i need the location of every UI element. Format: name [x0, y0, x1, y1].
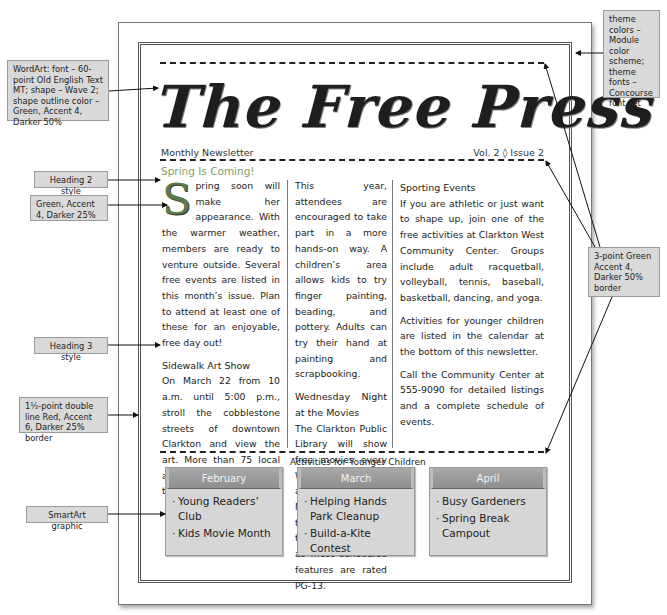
- callout-heading-2: Heading 2 style: [34, 171, 108, 188]
- list-item: Busy Gardeners: [436, 494, 542, 509]
- callout-page-border: 1½-point double line Red, Accent 6, Dark…: [19, 397, 108, 433]
- heading-3-wednesday-movies: Wednesday Night at the Movies: [295, 389, 387, 420]
- callout-dashed-border: 3-point Green Accent 4, Darker 50% borde…: [588, 247, 660, 297]
- col1-intro-paragraph: Spring soon will make her appearance. Wi…: [162, 178, 280, 351]
- smartart-caption: Activities for Younger Children: [290, 457, 426, 467]
- column-1: Spring soon will make her appearance. Wi…: [162, 178, 280, 506]
- drop-cap: S: [162, 180, 191, 218]
- callout-wordart: WordArt: font – 60-point Old English Tex…: [7, 60, 109, 121]
- column-divider: [287, 180, 288, 448]
- col2-intro-paragraph: This year, attendees are encouraged to t…: [295, 178, 387, 382]
- list-item: Spring Break Campout: [436, 511, 542, 541]
- smartart-header: April: [430, 468, 546, 489]
- list-item: Helping Hands Park Cleanup: [304, 494, 410, 524]
- column-divider: [392, 180, 393, 448]
- smartart-box-march[interactable]: March Helping Hands Park Cleanup Build-a…: [297, 467, 415, 556]
- masthead-bottom-dashed-border: [160, 159, 544, 161]
- smartart-list: Busy Gardeners Spring Break Campout: [430, 489, 546, 541]
- callout-theme: theme colors – Module color scheme; them…: [603, 10, 660, 98]
- smartart-list: Young Readers’ Club Kids Movie Month: [166, 489, 282, 541]
- smartart-list: Helping Hands Park Cleanup Build-a-Kite …: [298, 489, 414, 556]
- col3-younger-children-paragraph: Activities for younger children are list…: [400, 313, 544, 360]
- col3-sports-paragraph: If you are athletic or just want to shap…: [400, 196, 544, 306]
- col3-call-center-paragraph: Call the Community Center at 555-9090 fo…: [400, 367, 544, 430]
- heading-3-sporting-events: Sporting Events: [400, 180, 544, 196]
- callout-smartart: SmartArt graphic: [26, 506, 108, 523]
- list-item: Build-a-Kite Contest: [304, 526, 410, 556]
- wordart-title[interactable]: The Free Press: [155, 66, 551, 148]
- list-item: Young Readers’ Club: [172, 494, 278, 524]
- columns-bottom-dashed-border: [160, 451, 544, 453]
- masthead-top-dashed-border: [160, 62, 544, 64]
- column-3: Sporting Events If you are athletic or j…: [400, 178, 544, 437]
- volume-issue-label: Vol. 2 ◊ Issue 2: [470, 147, 544, 158]
- callout-heading-3: Heading 3 style: [34, 337, 108, 354]
- callout-dropcap-color: Green, Accent 4, Darker 25%: [30, 195, 108, 221]
- subtitle-monthly-newsletter: Monthly Newsletter: [161, 147, 253, 158]
- smartart-header: February: [166, 468, 282, 489]
- smartart-box-april[interactable]: April Busy Gardeners Spring Break Campou…: [429, 467, 547, 556]
- heading-3-sidewalk-art-show: Sidewalk Art Show: [162, 358, 280, 374]
- smartart-box-february[interactable]: February Young Readers’ Club Kids Movie …: [165, 467, 283, 556]
- smartart-header: March: [298, 468, 414, 489]
- list-item: Kids Movie Month: [172, 526, 278, 541]
